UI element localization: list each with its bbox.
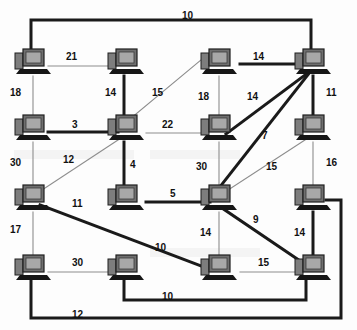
edge-weight-label: 17: [10, 225, 21, 235]
edge-weight-label: 10: [162, 292, 173, 302]
node-n42[interactable]: [107, 254, 145, 281]
edge-weight-label: 15: [266, 162, 277, 172]
node-n11[interactable]: [14, 48, 52, 75]
edge-weight-label: 14: [247, 92, 258, 102]
node-n32[interactable]: [107, 184, 145, 211]
node-n23[interactable]: [200, 114, 238, 141]
edge-weight-label: 21: [66, 52, 77, 62]
edge-weight-label: 15: [258, 258, 269, 268]
edge-weight-label: 18: [198, 92, 209, 102]
edge-weight-label: 22: [162, 120, 173, 130]
edge-weight-label: 30: [10, 158, 21, 168]
edge-weight-label: 7: [262, 131, 268, 141]
edge-weight-label: 10: [182, 11, 193, 21]
node-n14[interactable]: [294, 48, 332, 75]
node-n41[interactable]: [14, 254, 52, 281]
edge-weight-label: 3: [72, 120, 78, 130]
edge-weight-label: 12: [63, 155, 74, 165]
edge-weight-label: 14: [253, 52, 264, 62]
node-n33[interactable]: [200, 184, 238, 211]
edge-weight-label: 9: [253, 215, 259, 225]
edge-weight-label: 12: [72, 310, 83, 320]
edge-weight-label: 4: [130, 160, 136, 170]
node-n44[interactable]: [294, 254, 332, 281]
edge-weight-label: 30: [196, 162, 207, 172]
edge-weight-label: 11: [326, 88, 337, 98]
node-n24[interactable]: [294, 114, 332, 141]
edge-weight-label: 5: [170, 189, 176, 199]
edge-n42-n44-bottom-bus: [124, 280, 306, 300]
edge-weight-label: 14: [105, 88, 116, 98]
edge-weight-label: 14: [294, 228, 305, 238]
network-diagram: 10 21 14 18 14 15 18 14 11 3 22 7 30 12 …: [0, 0, 357, 330]
edge-weight-label: 14: [200, 228, 211, 238]
edge-weight-label: 11: [72, 199, 83, 209]
node-n34[interactable]: [294, 184, 332, 211]
edge-weight-label: 18: [10, 88, 21, 98]
node-n21[interactable]: [14, 114, 52, 141]
node-n43[interactable]: [200, 254, 238, 281]
edge-weight-label: 10: [155, 243, 166, 253]
edge-weight-label: 16: [326, 158, 337, 168]
node-n22[interactable]: [107, 114, 145, 141]
node-n31[interactable]: [14, 184, 52, 211]
node-n13[interactable]: [200, 48, 238, 75]
node-n12[interactable]: [107, 48, 145, 75]
edge-weight-label: 15: [152, 88, 163, 98]
edge-weight-label: 30: [72, 258, 83, 268]
